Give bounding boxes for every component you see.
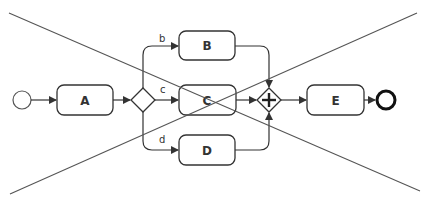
task-b[interactable]: B — [179, 31, 235, 60]
flow-label-c: c — [160, 84, 166, 95]
task-d-label: D — [202, 144, 212, 158]
exclusive-gateway[interactable] — [131, 88, 155, 112]
bpmn-diagram: A b c d B C D E — [0, 0, 424, 205]
task-d[interactable]: D — [179, 135, 235, 165]
end-event[interactable] — [377, 91, 395, 109]
task-a-label: A — [80, 94, 90, 108]
task-b-label: B — [202, 39, 211, 53]
task-e-label: E — [331, 94, 339, 108]
task-a[interactable]: A — [57, 85, 113, 115]
flow-label-d: d — [159, 134, 165, 145]
flow-label-b: b — [159, 33, 165, 44]
task-c[interactable]: C — [179, 85, 236, 115]
parallel-gateway[interactable] — [257, 88, 281, 112]
flow-split-to-b — [143, 46, 178, 88]
task-e[interactable]: E — [307, 85, 364, 115]
start-event[interactable] — [13, 91, 31, 109]
